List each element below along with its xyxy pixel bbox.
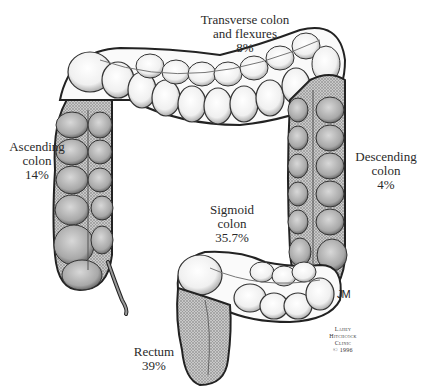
descending-percent: 4%	[346, 178, 426, 192]
credit-line2: Hitchcock	[316, 333, 370, 340]
sigmoid-name-line2: colon	[200, 217, 264, 231]
rectum-name: Rectum	[124, 345, 184, 359]
descending-name-line2: colon	[346, 164, 426, 178]
rectum	[177, 288, 231, 385]
ascending-colon	[54, 89, 127, 314]
label-transverse-colon: Transverse colon and flexures 8%	[185, 13, 305, 55]
label-descending-colon: Descending colon 4%	[346, 150, 426, 192]
transverse-name-line2: and flexures	[185, 27, 305, 41]
artist-signature: JM	[337, 288, 350, 300]
credit-line4: © 1996	[316, 347, 370, 354]
descending-name-line1: Descending	[346, 150, 426, 164]
ascending-name-line1: Ascending	[3, 140, 71, 154]
credit-lahey-hitchcock-clinic: Lahey Hitchcock Clinic © 1996	[316, 326, 370, 354]
transverse-name-line1: Transverse colon	[185, 13, 305, 27]
transverse-percent: 8%	[185, 41, 305, 55]
label-ascending-colon: Ascending colon 14%	[3, 140, 71, 182]
label-sigmoid-colon: Sigmoid colon 35.7%	[200, 203, 264, 245]
sigmoid-percent: 35.7%	[200, 231, 264, 245]
ascending-name-line2: colon	[3, 154, 71, 168]
colon-diagram: Transverse colon and flexures 8% Ascendi…	[0, 0, 429, 388]
label-rectum: Rectum 39%	[124, 345, 184, 373]
sigmoid-name-line1: Sigmoid	[200, 203, 264, 217]
credit-line3: Clinic	[316, 340, 370, 347]
ascending-percent: 14%	[3, 168, 71, 182]
credit-line1: Lahey	[316, 326, 370, 333]
rectum-percent: 39%	[124, 359, 184, 373]
